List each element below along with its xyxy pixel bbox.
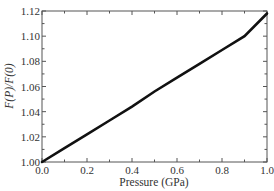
y-tick-label: 1.08: [21, 55, 41, 67]
plot-frame: [42, 11, 267, 162]
y-tick-label: 1.06: [21, 81, 41, 93]
y-tick-label: 1.00: [21, 156, 41, 168]
x-tick-label: 0.8: [215, 164, 229, 176]
y-tick-label: 1.04: [21, 106, 41, 118]
y-tick-labels: 1.001.021.041.061.081.101.12: [21, 5, 41, 168]
x-tick-labels: 0.00.20.40.60.81.0: [35, 164, 274, 176]
y-tick-label: 1.12: [21, 5, 40, 17]
plot-border: [42, 11, 267, 162]
y-tick-label: 1.10: [21, 30, 41, 42]
x-tick-label: 0.4: [125, 164, 139, 176]
chart: 0.00.20.40.60.81.0 1.001.021.041.061.081…: [0, 0, 274, 191]
y-axis-label: F(P)/F(0): [3, 63, 16, 110]
y-tick-label: 1.02: [21, 131, 40, 143]
data-line: [42, 14, 267, 163]
x-tick-label: 1.0: [260, 164, 274, 176]
x-axis-label: Pressure (GPa): [119, 176, 188, 189]
axis-ticks: [42, 11, 267, 162]
x-tick-label: 0.6: [170, 164, 184, 176]
x-tick-label: 0.2: [80, 164, 94, 176]
